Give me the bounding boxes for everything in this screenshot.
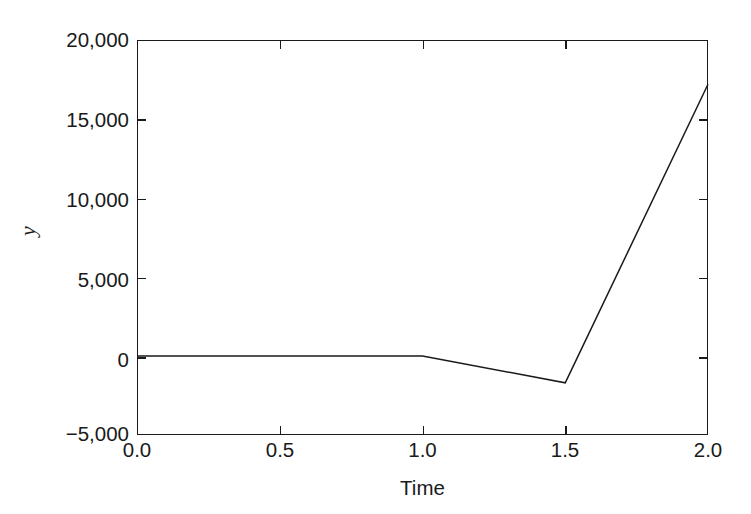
y-tick-label-group: 10,000 bbox=[9, 190, 129, 211]
x-tick-label-group: 1.0 bbox=[363, 440, 483, 461]
y-tick-label-group: 20,000 bbox=[9, 30, 129, 51]
x-tick-label: 0.0 bbox=[123, 438, 152, 461]
x-tick-label: 0.5 bbox=[266, 438, 295, 461]
data-series-layer bbox=[137, 40, 708, 435]
y-tick-label: 5,000 bbox=[78, 268, 129, 291]
x-tick-label-group: 0.5 bbox=[220, 440, 340, 461]
y-axis-title: y bbox=[15, 226, 41, 236]
x-tick-label: 1.0 bbox=[408, 438, 437, 461]
figure-canvas: 20,000 15,000 10,000 5,000 0 −5,000 0.0 … bbox=[0, 0, 751, 514]
y-tick-label-group: 0 bbox=[9, 350, 129, 371]
x-axis-title: Time bbox=[137, 476, 708, 500]
y-tick-label: 20,000 bbox=[66, 28, 129, 51]
y-tick-label: 10,000 bbox=[66, 188, 129, 211]
x-tick-label: 1.5 bbox=[551, 438, 580, 461]
x-tick-label-group: 1.5 bbox=[505, 440, 625, 461]
x-tick-label-group: 2.0 bbox=[648, 440, 751, 461]
y-tick-label-group: 15,000 bbox=[9, 110, 129, 131]
series-line-y bbox=[137, 84, 708, 383]
y-tick-label: 15,000 bbox=[66, 108, 129, 131]
y-tick-label-group: 5,000 bbox=[9, 270, 129, 291]
x-tick-label-group: 0.0 bbox=[77, 440, 197, 461]
y-tick-label: 0 bbox=[118, 348, 129, 371]
x-tick-label: 2.0 bbox=[694, 438, 723, 461]
